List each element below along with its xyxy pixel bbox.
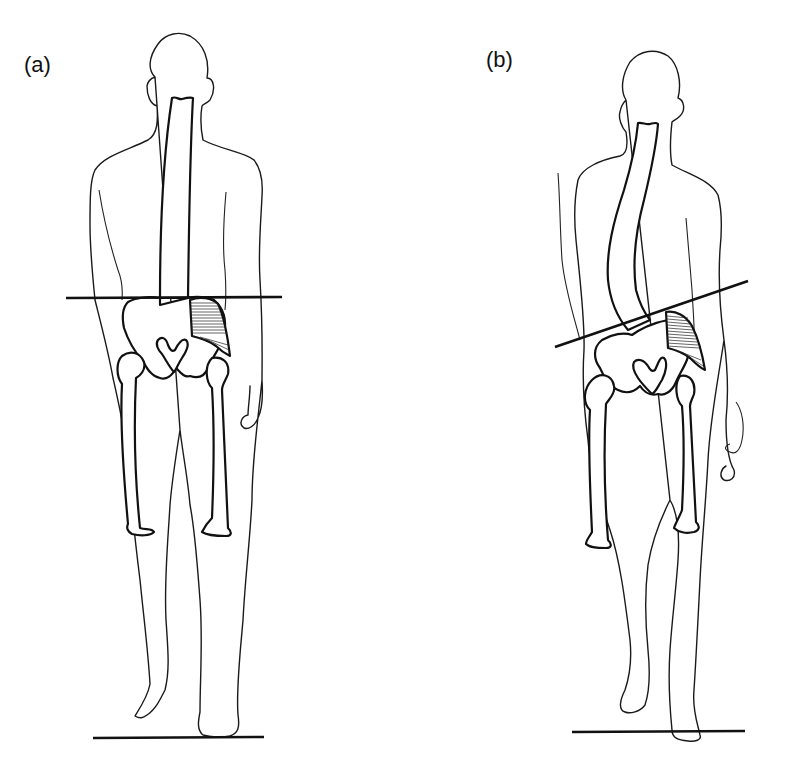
spine-a [160,97,193,298]
left-arm-line-b [558,173,580,340]
left-femur-a [118,353,155,536]
anatomy-diagram [0,0,789,761]
floor-line-a [93,737,264,738]
floor-line-b [572,731,745,732]
pelvic-line-a [66,297,282,298]
figure-a [66,33,282,738]
figure-b [555,51,748,741]
spine-b [608,123,658,330]
right-femur-a [202,358,231,536]
left-femur-b [585,375,614,548]
right-femur-b [674,376,699,533]
hand-b [726,402,744,453]
right-arm-line-a [223,192,226,310]
left-arm-line-a [99,190,122,300]
